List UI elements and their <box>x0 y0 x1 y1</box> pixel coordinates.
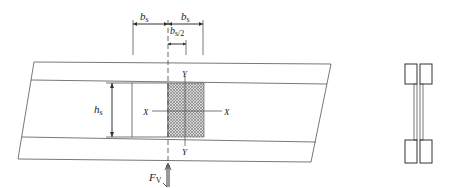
label-force: FV <box>148 171 162 185</box>
top-flange-left <box>405 64 417 84</box>
top-flange-outer-line <box>34 62 331 64</box>
bottom-flange-left <box>405 140 417 163</box>
right-edge-line <box>311 64 331 162</box>
label-bs-right: bs <box>181 10 190 24</box>
label-x-right: X <box>223 107 230 117</box>
label-hs: hs <box>94 103 103 117</box>
label-half-bs: bs/2 <box>170 25 184 38</box>
effective-section-hatched <box>168 83 204 137</box>
web-left <box>414 84 417 140</box>
bottom-flange-right <box>420 140 432 163</box>
bottom-flange-inner-line <box>22 137 316 142</box>
stiffener-diagram: bs bs bs/2 hs X X Y Y FV <box>0 0 450 188</box>
label-x-left: X <box>142 107 149 117</box>
label-bs-left: bs <box>140 10 149 24</box>
bottom-flange-outer-line <box>18 159 311 162</box>
label-y-top: Y <box>182 69 188 79</box>
label-y-bottom: Y <box>182 147 188 157</box>
web-right <box>420 84 423 140</box>
top-flange-right <box>420 64 432 84</box>
cross-section-view <box>405 64 432 163</box>
force-arrow <box>163 163 171 187</box>
left-edge-line <box>18 62 34 159</box>
stiffener-outline <box>132 83 168 137</box>
